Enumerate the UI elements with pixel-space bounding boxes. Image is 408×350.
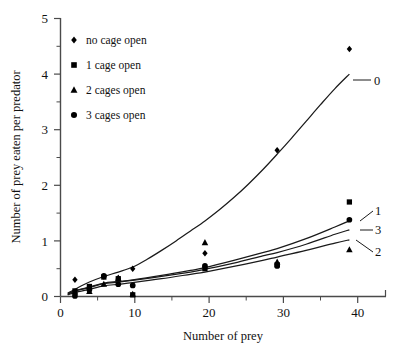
legend-label-0: no cage open bbox=[86, 34, 147, 47]
data-point bbox=[101, 273, 107, 279]
curve-label-1: 1 bbox=[375, 204, 381, 218]
x-tick-label-20: 20 bbox=[203, 305, 216, 320]
x-axis-title: Number of prey bbox=[183, 329, 264, 343]
y-tick-label-2: 2 bbox=[42, 178, 49, 193]
data-point bbox=[130, 283, 136, 289]
curve-label-3: 3 bbox=[375, 223, 381, 237]
data-point bbox=[72, 293, 78, 299]
y-tick-label-1: 1 bbox=[42, 234, 49, 249]
data-point bbox=[347, 217, 353, 223]
data-point bbox=[202, 263, 208, 269]
data-point bbox=[115, 281, 121, 287]
legend-marker-circle bbox=[71, 112, 77, 118]
y-tick-label-0: 0 bbox=[42, 289, 49, 304]
x-tick-label-10: 10 bbox=[128, 305, 141, 320]
legend-marker-square bbox=[71, 62, 77, 68]
legend-label-3: 3 cages open bbox=[86, 109, 146, 122]
curve-label-2: 2 bbox=[375, 245, 381, 259]
curve-label-0: 0 bbox=[374, 74, 380, 88]
legend-label-1: 1 cage open bbox=[86, 59, 141, 72]
data-point bbox=[87, 287, 93, 293]
legend-label-2: 2 cages open bbox=[86, 84, 146, 97]
x-tick-label-40: 40 bbox=[351, 305, 364, 320]
x-tick-label-0: 0 bbox=[57, 305, 64, 320]
y-axis-title: Number of prey eaten per predator bbox=[9, 70, 23, 244]
y-tick-label-5: 5 bbox=[42, 11, 49, 26]
chart-svg: 0 1 2 3 4 5 0 10 20 30 40 Number o bbox=[0, 0, 408, 350]
data-point bbox=[347, 199, 352, 204]
y-tick-label-4: 4 bbox=[42, 67, 49, 82]
prey-predator-scatter-chart: 0 1 2 3 4 5 0 10 20 30 40 Number o bbox=[0, 0, 408, 350]
y-tick-label-3: 3 bbox=[42, 122, 49, 137]
x-tick-label-30: 30 bbox=[277, 305, 290, 320]
data-point bbox=[274, 263, 280, 269]
